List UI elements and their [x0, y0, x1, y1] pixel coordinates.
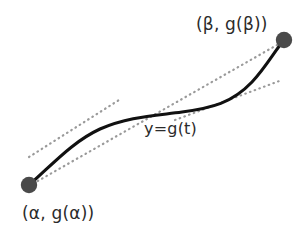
alpha-endpoint-dot — [21, 177, 37, 193]
tangent-upper-left-dotted-line — [29, 100, 119, 157]
beta-endpoint-dot — [276, 32, 292, 48]
left-endpoint-label: (α, g(α)) — [22, 203, 94, 223]
secant-chord-dotted-line — [29, 41, 284, 186]
mean-value-theorem-figure: (β, g(β)) (α, g(α)) y=g(t) — [0, 0, 303, 239]
curve-label: y=g(t) — [144, 119, 197, 138]
right-endpoint-label: (β, g(β)) — [196, 14, 268, 34]
